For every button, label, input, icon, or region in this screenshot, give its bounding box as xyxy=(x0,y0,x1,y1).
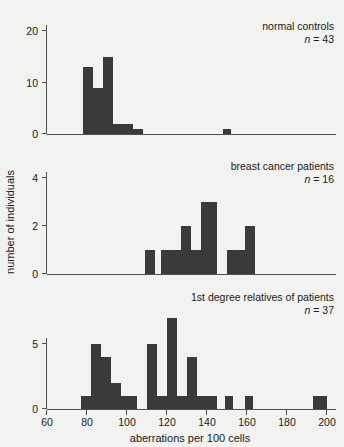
y-tick-label: 0 xyxy=(32,268,38,280)
histogram-bar xyxy=(313,396,327,409)
histogram-bar xyxy=(187,357,197,409)
y-tick-label: 5 xyxy=(32,338,38,350)
histogram-bar xyxy=(245,396,253,409)
x-tick-label: 100 xyxy=(118,416,136,428)
x-tick-label: 60 xyxy=(41,416,53,428)
histogram-bar xyxy=(171,250,181,274)
x-axis-title: aberrations per 100 cells xyxy=(130,432,251,444)
histogram-bar xyxy=(197,396,217,409)
chart-canvas: 01020normal controlsn = 43024breast canc… xyxy=(0,0,344,447)
histogram-bar xyxy=(83,67,93,134)
histogram-bar xyxy=(177,396,187,409)
x-tick-label: 160 xyxy=(238,416,256,428)
histogram-bar xyxy=(93,88,103,134)
y-tick-label: 0 xyxy=(32,128,38,140)
panel-sample-size: n = 43 xyxy=(305,33,335,45)
histogram-bar xyxy=(111,383,121,409)
histogram-bar xyxy=(121,396,137,409)
histogram-bar xyxy=(191,250,201,274)
y-tick-label: 2 xyxy=(32,220,38,232)
histogram-bar xyxy=(245,226,255,274)
panel-sample-size: n = 16 xyxy=(305,173,335,185)
histogram-bar xyxy=(157,396,167,409)
y-tick-label: 20 xyxy=(26,25,38,37)
histogram-bar xyxy=(101,357,111,409)
y-tick-label: 4 xyxy=(32,172,38,184)
x-tick-label: 80 xyxy=(81,416,93,428)
histogram-bar xyxy=(225,396,233,409)
x-tick-label: 120 xyxy=(158,416,176,428)
panel-title: 1st degree relatives of patients xyxy=(191,291,334,303)
histogram-bar xyxy=(123,124,133,134)
histogram-figure: 01020normal controlsn = 43024breast canc… xyxy=(0,0,344,447)
panel-title: breast cancer patients xyxy=(231,160,334,172)
histogram-bar xyxy=(113,124,123,134)
histogram-bar xyxy=(145,250,155,274)
y-axis-title: number of individuals xyxy=(4,170,16,274)
histogram-bar xyxy=(81,396,91,409)
x-tick-label: 180 xyxy=(278,416,296,428)
histogram-bar xyxy=(181,226,191,274)
x-tick-label: 140 xyxy=(198,416,216,428)
histogram-bar xyxy=(161,250,171,274)
histogram-bar xyxy=(147,344,157,409)
histogram-bar xyxy=(227,250,245,274)
y-tick-label: 0 xyxy=(32,403,38,415)
histogram-bar xyxy=(133,129,143,134)
histogram-bar xyxy=(223,129,231,134)
x-tick-label: 200 xyxy=(318,416,336,428)
panel-title: normal controls xyxy=(262,20,334,32)
panel-sample-size: n = 37 xyxy=(305,304,335,316)
histogram-bar xyxy=(91,344,101,409)
histogram-bar xyxy=(103,57,113,134)
histogram-bar xyxy=(201,202,217,274)
y-tick-label: 10 xyxy=(26,77,38,89)
histogram-bar xyxy=(167,318,177,409)
